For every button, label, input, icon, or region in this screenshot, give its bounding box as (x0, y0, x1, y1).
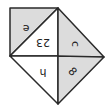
label-right: c (69, 41, 82, 47)
label-bottom-left: h (39, 66, 46, 79)
region-right (58, 8, 104, 57)
label-center: 23 (36, 36, 50, 49)
triangle-puzzle-diagram: e 23 c h 8 (0, 0, 112, 112)
region-bottom-left (10, 56, 58, 104)
region-bottom-right (58, 56, 104, 104)
label-top-left: e (22, 22, 29, 35)
